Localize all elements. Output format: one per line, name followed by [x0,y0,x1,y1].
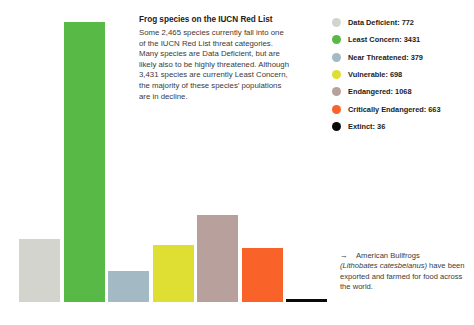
annotation-line1: American Bullfrogs [356,251,420,260]
legend-item[interactable]: Least Concern: 3431 [332,31,474,48]
arrow-right-icon: → [340,251,356,261]
legend-item-label: Endangered: 1068 [348,87,412,96]
legend-item[interactable]: Data Deficient: 772 [332,14,474,31]
legend-item[interactable]: Near Threatened: 379 [332,49,474,66]
annotation-bullfrogs: →American Bullfrogs (Lithobates catesbei… [340,251,470,293]
bar-critically-endangered [242,248,283,302]
legend-swatch-icon [332,87,341,96]
bar-least-concern [64,22,105,302]
legend-item[interactable]: Vulnerable: 698 [332,66,474,83]
legend-item[interactable]: Critically Endangered: 663 [332,100,474,117]
page-title: Frog species on the IUCN Red List [139,14,289,25]
legend-swatch-icon [332,70,341,79]
legend-item-label: Data Deficient: 772 [348,18,414,27]
bar-data-deficient [19,239,60,302]
legend-item-label: Least Concern: 3431 [348,35,420,44]
legend-swatch-icon [332,122,341,131]
legend-swatch-icon [332,53,341,62]
infographic-canvas: Frog species on the IUCN Red List Some 2… [0,0,474,325]
bar-extinct [286,299,327,302]
legend-item-label: Extinct: 36 [348,122,385,131]
description-paragraph: Some 2,465 species currently fall into o… [139,28,289,102]
legend-item[interactable]: Extinct: 36 [332,118,474,135]
legend-swatch-icon [332,18,341,27]
legend-swatch-icon [332,35,341,44]
legend-item-label: Vulnerable: 698 [348,70,402,79]
legend-item-label: Near Threatened: 379 [348,53,423,62]
bar-near-threatened [108,271,149,302]
legend-item[interactable]: Endangered: 1068 [332,83,474,100]
legend: Data Deficient: 772Least Concern: 3431Ne… [332,14,474,135]
legend-item-label: Critically Endangered: 663 [348,105,441,114]
annotation-species-name: (Lithobates catesbeianus) [340,261,427,270]
bar-endangered [197,215,238,302]
bar-vulnerable [153,245,194,302]
text-block: Frog species on the IUCN Red List Some 2… [139,14,289,102]
legend-swatch-icon [332,105,341,114]
